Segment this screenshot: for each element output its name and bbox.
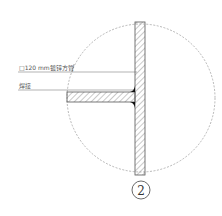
label-weld: 焊接 <box>19 82 31 90</box>
vertical-tube-section <box>135 22 145 175</box>
label-tube: □120 mm镀锌方管 <box>19 64 74 72</box>
weld-fillet-bottom-icon <box>130 102 135 108</box>
detail-drawing: □120 mm镀锌方管 焊接 2 <box>0 0 222 216</box>
detail-number: 2 <box>137 184 145 198</box>
weld-fillet-top-icon <box>130 86 135 92</box>
horizontal-plate-section <box>67 92 135 102</box>
